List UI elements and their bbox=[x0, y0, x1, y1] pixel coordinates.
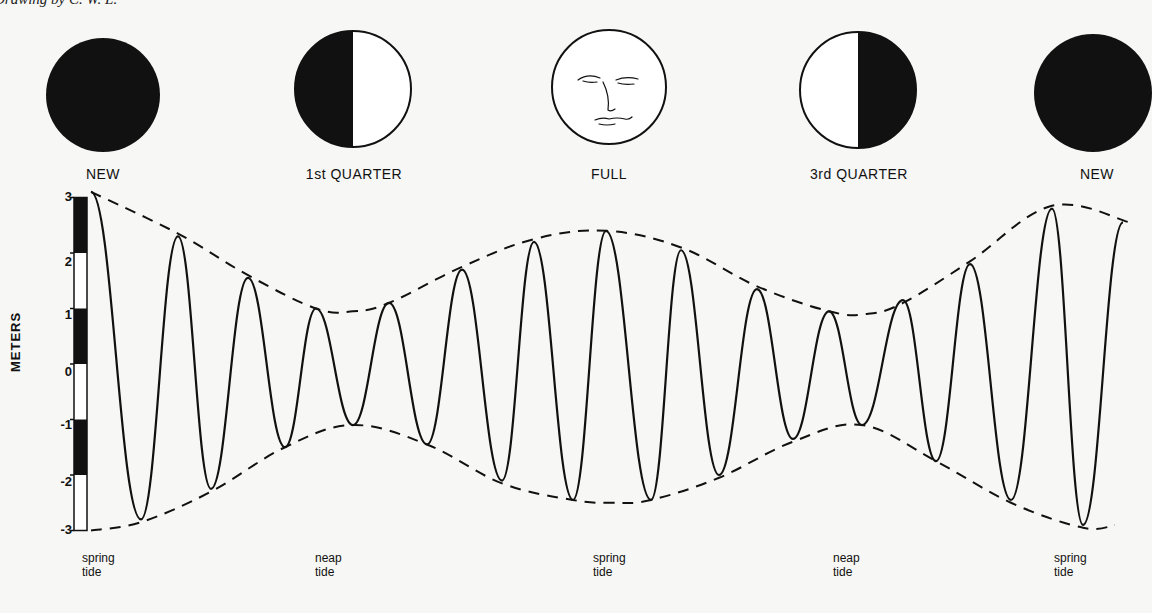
moon-label-full: FULL bbox=[591, 166, 627, 182]
moon-full-icon bbox=[552, 30, 666, 144]
y-axis-title: METERS bbox=[8, 312, 23, 372]
tide-label-spring-2: springtide bbox=[593, 551, 626, 579]
moon-new-icon bbox=[1034, 34, 1152, 152]
moon-new-icon bbox=[46, 38, 160, 152]
tide-label-neap-2: neaptide bbox=[833, 551, 860, 579]
y-tick-minus-2: -2 bbox=[42, 474, 72, 489]
tide-envelopes bbox=[91, 192, 1130, 531]
tide-label-spring-3: springtide bbox=[1054, 551, 1087, 579]
tide-label-neap-1: neaptide bbox=[315, 551, 342, 579]
moon-label-new-2: NEW bbox=[1080, 166, 1114, 182]
y-tick-minus-1: -1 bbox=[42, 417, 72, 432]
moon-label-first-quarter: 1st QUARTER bbox=[306, 166, 402, 182]
y-tick-0: 0 bbox=[42, 364, 72, 379]
upper-envelope bbox=[91, 192, 1130, 315]
y-tick-1: 1 bbox=[42, 307, 72, 322]
y-tick-2: 2 bbox=[42, 254, 72, 269]
tide-diagram bbox=[0, 0, 1152, 613]
moon-label-third-quarter: 3rd QUARTER bbox=[810, 166, 908, 182]
moon-first-quarter-icon bbox=[295, 31, 411, 147]
y-tick-3: 3 bbox=[42, 189, 72, 204]
tide-curve bbox=[91, 192, 1123, 525]
y-tick-minus-3: -3 bbox=[42, 522, 72, 537]
moon-label-new: NEW bbox=[86, 166, 120, 182]
lower-envelope bbox=[91, 424, 1115, 530]
moon-third-quarter-icon bbox=[800, 32, 916, 148]
tide-label-spring-1: springtide bbox=[82, 551, 115, 579]
moon-phases bbox=[46, 30, 1152, 152]
meter-scale-bar bbox=[70, 198, 87, 531]
